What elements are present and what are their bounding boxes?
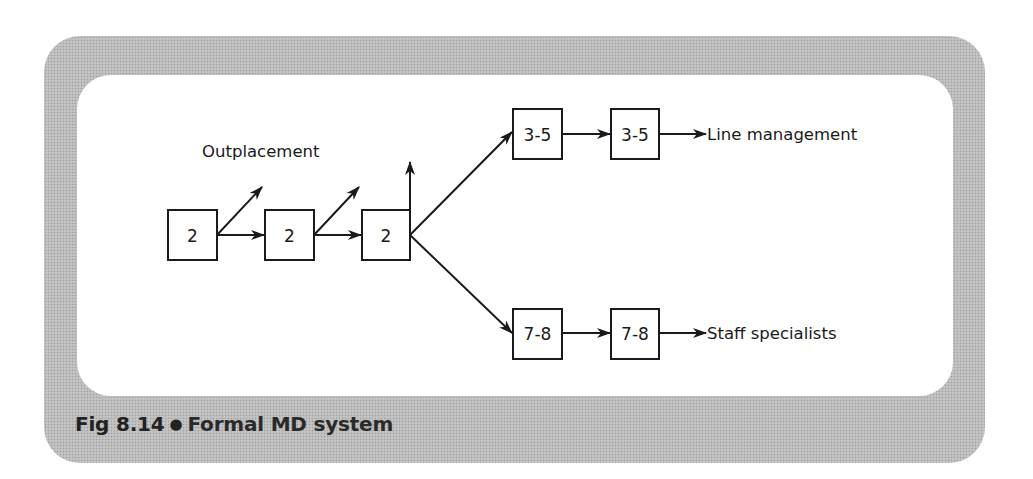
node-label: 7-8	[621, 324, 649, 344]
staff-specialists-label: Staff specialists	[707, 324, 837, 343]
line-management-label: Line management	[707, 125, 858, 144]
figure-caption: Fig 8.14●Formal MD system	[75, 412, 393, 436]
node-label: 2	[381, 226, 392, 246]
outplacement-label: Outplacement	[202, 142, 320, 161]
bullet-icon: ●	[170, 415, 183, 433]
outplacement-arrow	[217, 187, 262, 235]
figure-title: Formal MD system	[187, 412, 393, 436]
node-label: 3-5	[524, 125, 552, 145]
branch-arrow-down	[410, 235, 512, 333]
node-label: 7-8	[524, 324, 552, 344]
branch-arrow-up	[410, 132, 512, 235]
node-label: 2	[284, 226, 295, 246]
outplacement-arrow	[314, 187, 359, 235]
flow-diagram: 2 2 2 3-5 3-5 7-8 7-8 Outplacement Line …	[0, 0, 1033, 479]
figure-number: Fig 8.14	[75, 412, 165, 436]
node-label: 2	[187, 226, 198, 246]
node-label: 3-5	[621, 125, 649, 145]
